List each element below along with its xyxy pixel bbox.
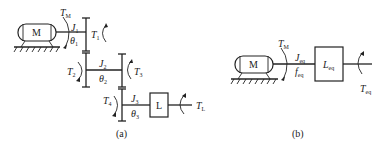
svg-text:M: M bbox=[249, 59, 258, 70]
panel-b: M TM Jeq feq Leq Teq (b) bbox=[231, 38, 372, 140]
ground-b bbox=[231, 79, 278, 84]
svg-text:feq: feq bbox=[295, 66, 303, 78]
motor-a: M bbox=[18, 24, 56, 47]
svg-text:θ1: θ1 bbox=[70, 35, 78, 47]
panel-a: M TM J1 θ1 T1 bbox=[14, 7, 206, 140]
svg-text:θ3: θ3 bbox=[131, 108, 139, 120]
svg-text:TL: TL bbox=[196, 100, 206, 112]
load-a: L bbox=[150, 93, 168, 117]
svg-text:TM: TM bbox=[60, 7, 72, 19]
svg-text:θ2: θ2 bbox=[99, 73, 107, 85]
gear-train-diagram: M TM J1 θ1 T1 bbox=[0, 0, 390, 147]
ground-a bbox=[14, 47, 60, 52]
svg-text:J2: J2 bbox=[99, 58, 106, 70]
svg-text:T4: T4 bbox=[103, 95, 112, 107]
caption-a: (a) bbox=[116, 128, 127, 140]
svg-text:J1: J1 bbox=[71, 22, 78, 34]
load-b: Leq bbox=[315, 47, 343, 81]
svg-text:T1: T1 bbox=[91, 29, 100, 41]
svg-text:TM: TM bbox=[278, 38, 290, 50]
motor-b: M bbox=[235, 56, 273, 79]
caption-b: (b) bbox=[292, 128, 304, 140]
svg-text:T3: T3 bbox=[134, 66, 143, 78]
motor-label: M bbox=[32, 27, 41, 38]
torque-arrow-t4 bbox=[114, 96, 118, 115]
svg-text:Jeq: Jeq bbox=[295, 52, 305, 64]
gear-1 bbox=[82, 18, 90, 51]
torque-arrow-t3 bbox=[128, 61, 132, 79]
svg-text:T2: T2 bbox=[67, 66, 76, 78]
svg-text:L: L bbox=[156, 100, 162, 111]
svg-text:Teq: Teq bbox=[360, 83, 371, 95]
svg-text:J3: J3 bbox=[131, 93, 138, 105]
